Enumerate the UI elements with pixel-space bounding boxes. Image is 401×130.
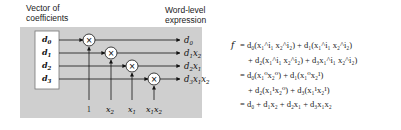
times-icon: × (86, 36, 93, 45)
right-label-line1: Word-level (165, 5, 206, 15)
times-icon: × (108, 49, 115, 58)
equation-line-4: + d₂(x₁¹x₂⁰) + d₃(x₁¹x₂¹) (248, 85, 330, 95)
equation-line-2: + d₂(x₁^i₁ x₂^i₂) + d₃x₁^i₁ x₂^i₂) (248, 55, 357, 65)
word-level-diagram-figure: Vector of coefficients Word-level expres… (0, 0, 401, 130)
times-icon: × (151, 75, 158, 84)
multiplier-2: × (126, 60, 138, 72)
multiplier-3: × (148, 73, 160, 85)
equation-line-3: = d₀(x₁⁰x₂⁰) + d₁(x₁⁰x₂¹) (240, 70, 324, 80)
right-label-line2: expression (165, 15, 206, 25)
diagram-canvas: Vector of coefficients Word-level expres… (0, 0, 401, 130)
equation-line-1: = d₀(x₁^i₁ x₂^i₂) + d₁(x₁^i₁ x₂^i₂) (240, 40, 352, 50)
multiplier-0: × (83, 34, 95, 46)
equation-line-5: = d₀ + d₁x₂ + d₂x₁ + d₃x₁x₂ (240, 99, 332, 109)
times-icon: × (129, 62, 136, 71)
output-d3x1x2: d3x1x2 (184, 74, 210, 85)
multiplier-1: × (105, 47, 117, 59)
left-label-line1: Vector of (26, 3, 60, 13)
equation-lhs: f (230, 40, 236, 50)
equation-block: f = d₀(x₁^i₁ x₂^i₂) + d₁(x₁^i₁ x₂^i₂) + … (230, 40, 357, 109)
left-label-line2: coefficients (26, 13, 68, 23)
word-level-expression-label: Word-level expression (165, 5, 206, 25)
vector-of-coefficients-label: Vector of coefficients (26, 3, 68, 23)
input-1: 1 (87, 105, 91, 114)
